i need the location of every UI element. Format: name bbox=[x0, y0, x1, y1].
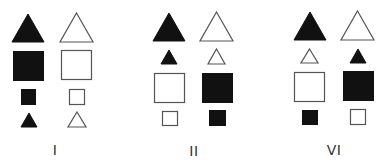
panel-label-VI: VI bbox=[327, 143, 342, 157]
outline-square-icon bbox=[62, 51, 92, 80]
outline-triangle-icon bbox=[200, 12, 233, 41]
panel-label-II: II bbox=[189, 144, 198, 158]
outline-triangle-icon bbox=[341, 11, 374, 40]
filled-square-icon bbox=[22, 90, 36, 105]
filled-square-icon bbox=[14, 52, 44, 81]
filled-square-icon bbox=[203, 74, 233, 103]
filled-square-icon bbox=[344, 72, 374, 101]
panel-label-I: I bbox=[53, 143, 58, 157]
panel-VI-shapes bbox=[294, 11, 374, 125]
panel-I-shapes bbox=[12, 13, 93, 127]
shapes-layer bbox=[12, 11, 374, 127]
figure-canvas bbox=[0, 0, 384, 164]
filled-triangle-icon bbox=[21, 113, 37, 127]
outline-square-icon bbox=[295, 73, 325, 102]
outline-triangle-icon bbox=[60, 13, 93, 42]
outline-square-icon bbox=[163, 112, 178, 126]
outline-square-icon bbox=[351, 110, 366, 125]
outline-square-icon bbox=[70, 90, 85, 105]
filled-triangle-icon bbox=[161, 50, 177, 64]
filled-triangle-icon bbox=[350, 49, 366, 63]
filled-triangle-icon bbox=[294, 12, 326, 40]
outline-square-icon bbox=[155, 74, 185, 103]
outline-triangle-icon bbox=[301, 49, 318, 63]
filled-triangle-icon bbox=[12, 14, 44, 42]
panel-II-shapes bbox=[153, 12, 233, 126]
filled-square-icon bbox=[210, 111, 226, 126]
outline-triangle-icon bbox=[208, 49, 225, 64]
filled-square-icon bbox=[303, 111, 318, 125]
filled-triangle-icon bbox=[153, 13, 185, 41]
outline-triangle-icon bbox=[68, 112, 86, 127]
